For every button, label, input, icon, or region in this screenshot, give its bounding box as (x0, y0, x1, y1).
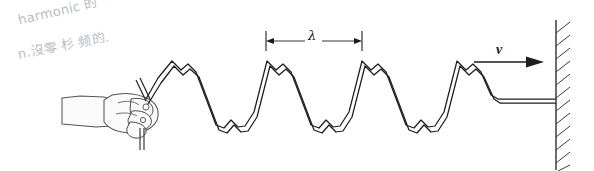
velocity-arrow (474, 57, 544, 68)
fixed-wall (556, 20, 570, 171)
diagram-canvas (0, 0, 594, 171)
rope-wave (146, 61, 556, 133)
wave-diagram-figure: harmonic 的 n.沒零 杉 频的. (0, 0, 594, 171)
wavelength-dimension-marker (266, 31, 362, 51)
hand-gripping-rope (62, 78, 158, 150)
